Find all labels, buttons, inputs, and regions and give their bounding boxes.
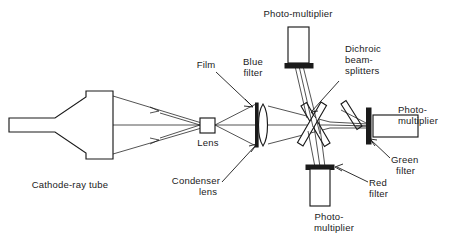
- label-film: Film: [197, 59, 216, 70]
- label-condenser-lens-line2: lens: [199, 186, 217, 197]
- ray-lens-to-film-upper: [215, 104, 256, 125]
- film: [256, 103, 259, 147]
- ray-lens-to-film-lower: [215, 125, 256, 146]
- optical-diagram: Cathode-ray tube Lens Condenser lens Fil…: [0, 0, 452, 243]
- label-dichroic-line3: splitters: [345, 65, 380, 76]
- ray-upper: [113, 96, 205, 124]
- ray-green-upper: [330, 122, 368, 124]
- label-dichroic-line1: Dichroic: [345, 43, 381, 54]
- label-dichroic-line2: beam-: [345, 54, 373, 65]
- label-red-filter-line2: filter: [369, 188, 388, 199]
- ray-lower: [113, 127, 205, 154]
- photomultiplier-bottom: [310, 169, 330, 206]
- ray-lens-back-lower: [160, 125, 200, 138]
- label-photomultiplier-bottom-line1: Photo-: [314, 211, 343, 222]
- label-red-filter-line1: Red: [369, 177, 387, 188]
- label-photomultiplier-top: Photo-multiplier: [263, 8, 332, 19]
- label-photomultiplier-bottom-line2: multiplier: [314, 222, 354, 233]
- label-photomultiplier-right-line2: multiplier: [398, 115, 438, 126]
- label-blue-filter-line2: filter: [243, 67, 262, 78]
- leader-condenser: [222, 145, 256, 182]
- ray-red-left: [308, 131, 315, 167]
- label-photomultiplier-right-line1: Photo-: [398, 104, 427, 115]
- ray-lens-back-upper: [160, 113, 200, 125]
- photomultiplier-top: [288, 27, 309, 63]
- optics-schematic: Cathode-ray tube Lens Condenser lens Fil…: [0, 0, 452, 243]
- blue-filter: [285, 64, 313, 69]
- label-green-filter-line2: filter: [396, 165, 415, 176]
- leader-red-filter: [337, 167, 368, 182]
- lens: [200, 118, 215, 133]
- cathode-ray-tube: [9, 91, 113, 159]
- label-blue-filter-line1: Blue: [243, 56, 263, 67]
- label-green-filter-line1: Green: [391, 154, 418, 165]
- label-lens: Lens: [197, 137, 218, 148]
- condenser-lens: [259, 104, 268, 146]
- label-condenser-lens-line1: Condenser: [172, 175, 220, 186]
- ray-upper-arrowhead: [150, 107, 159, 113]
- label-cathode-ray-tube: Cathode-ray tube: [32, 179, 109, 190]
- ray-lower-arrowhead: [150, 138, 159, 144]
- leader-green-filter: [371, 140, 390, 158]
